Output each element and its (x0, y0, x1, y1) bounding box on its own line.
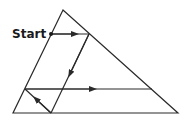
triangle-outline (13, 10, 178, 113)
start-point-dot (49, 32, 53, 36)
segment-3 (25, 89, 51, 113)
triangle-path-diagram (0, 0, 190, 128)
segment-2 (51, 34, 89, 113)
start-label: Start (12, 27, 46, 41)
